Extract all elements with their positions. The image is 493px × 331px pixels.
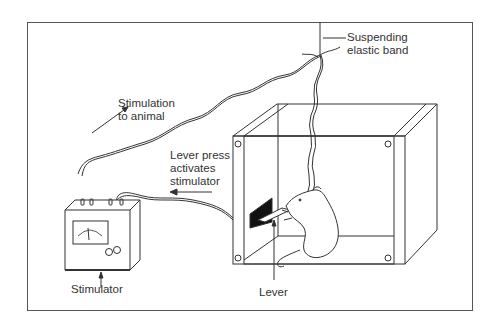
lever-panel [250,198,272,228]
label-line: stimulator [170,175,230,188]
label-stimulator: Stimulator [71,283,123,296]
label-line: activates [170,162,230,175]
label-line: elastic band [347,44,408,57]
label-line: to animal [118,110,175,123]
label-line: Suspending [347,31,408,44]
rat [286,190,338,258]
apparatus-drawing [0,0,493,331]
label-lever: Lever [259,286,288,299]
label-suspending-band: Suspending elastic band [347,31,408,57]
label-stimulation: Stimulation to animal [118,97,175,123]
label-lever-press: Lever press activates stimulator [170,149,230,188]
label-line: Stimulation [118,97,175,110]
label-line: Lever press [170,149,230,162]
